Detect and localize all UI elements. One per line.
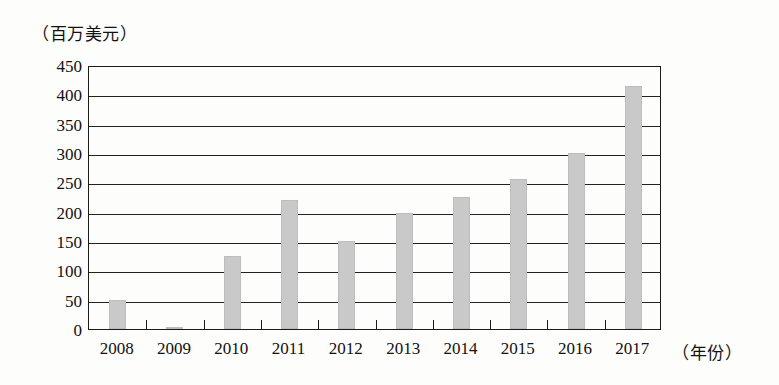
bar bbox=[109, 300, 126, 329]
bar bbox=[281, 200, 298, 329]
x-axis-tick-mark bbox=[146, 320, 147, 329]
y-axis-tick-label: 150 bbox=[22, 234, 82, 251]
gridline bbox=[89, 96, 660, 97]
bar bbox=[396, 213, 413, 329]
x-axis-tick-mark bbox=[433, 320, 434, 329]
y-axis-tick-label: 350 bbox=[22, 116, 82, 133]
x-axis-tick-label: 2017 bbox=[597, 339, 667, 359]
x-axis-tick-mark bbox=[204, 320, 205, 329]
bar bbox=[453, 197, 470, 329]
bar bbox=[166, 327, 183, 329]
x-axis-tick-mark bbox=[490, 320, 491, 329]
y-axis-tick-label: 250 bbox=[22, 175, 82, 192]
y-axis-tick-label: 200 bbox=[22, 204, 82, 221]
x-axis-tick-mark bbox=[605, 320, 606, 329]
bar bbox=[510, 179, 527, 329]
y-axis-tick-label: 50 bbox=[22, 292, 82, 309]
bar-chart-figure: （百万美元） 050100150200250300350400450 20082… bbox=[0, 0, 779, 385]
y-axis-tick-label: 300 bbox=[22, 146, 82, 163]
x-axis-tick-mark bbox=[318, 320, 319, 329]
bar bbox=[568, 153, 585, 329]
x-axis-tick-mark bbox=[376, 320, 377, 329]
y-axis-tick-label: 450 bbox=[22, 58, 82, 75]
plot-area bbox=[88, 66, 661, 330]
gridline bbox=[89, 126, 660, 127]
bar bbox=[224, 256, 241, 329]
y-axis-tick-label: 100 bbox=[22, 263, 82, 280]
x-axis-tick-mark bbox=[547, 320, 548, 329]
bar bbox=[625, 86, 642, 329]
x-axis-tick-mark bbox=[261, 320, 262, 329]
y-axis-unit-label: （百万美元） bbox=[32, 20, 137, 45]
x-axis-unit-label: （年份） bbox=[672, 339, 742, 364]
y-axis-tick-label: 0 bbox=[22, 322, 82, 339]
bar bbox=[338, 241, 355, 329]
y-axis-tick-label: 400 bbox=[22, 87, 82, 104]
